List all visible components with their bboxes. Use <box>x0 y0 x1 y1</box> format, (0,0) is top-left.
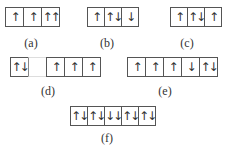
orbital-box: ↑ <box>170 7 188 27</box>
orbital-box: ↑ <box>5 7 24 27</box>
orbital-box <box>28 57 47 77</box>
label-f: (f) <box>101 131 113 146</box>
orbital-box: ↑↓ <box>87 106 105 126</box>
label-e: (e) <box>158 84 171 99</box>
label-a: (a) <box>24 36 37 51</box>
orbital-box: ↑↓ <box>70 106 88 126</box>
orbital-diagram-f: ↑↓ ↑↓ ↓↓ ↑↓ ↑↓ <box>70 106 156 126</box>
orbital-box: ↑ <box>87 7 105 27</box>
orbital-diagram-d: ↑↓ ↑ ↑ ↑ <box>10 57 101 77</box>
orbital-diagram-c: ↑ ↑↓ ↑ <box>170 7 222 27</box>
orbital-box: ↑ <box>204 7 222 27</box>
orbital-diagram-b: ↑ ↑↓ ↓ <box>87 7 139 27</box>
orbital-box: ↑↓ <box>138 106 156 126</box>
orbital-box: ↑ <box>64 57 83 77</box>
orbital-box: ↓ <box>181 57 200 77</box>
label-d: (d) <box>41 84 55 99</box>
orbital-diagram-e: ↑ ↑ ↑ ↓ ↑↓ <box>127 57 218 77</box>
orbital-box: ↑ <box>46 57 65 77</box>
label-c: (c) <box>180 36 193 51</box>
orbital-box: ↑↓ <box>187 7 205 27</box>
orbital-box: ↑ <box>82 57 101 77</box>
orbital-box: ↑↓ <box>199 57 218 77</box>
orbital-box: ↑ <box>23 7 42 27</box>
orbital-box: ↑ <box>127 57 146 77</box>
orbital-box: ↓↓ <box>104 106 122 126</box>
orbital-diagram-a: ↑ ↑ ↑↑ <box>5 7 60 27</box>
orbital-box: ↑↓ <box>121 106 139 126</box>
orbital-box: ↑↓ <box>104 7 122 27</box>
orbital-box: ↑↓ <box>10 57 29 77</box>
orbital-box: ↑↑ <box>41 7 60 27</box>
label-b: (b) <box>100 36 114 51</box>
orbital-box: ↑ <box>145 57 164 77</box>
orbital-box: ↓ <box>121 7 139 27</box>
orbital-box: ↑ <box>163 57 182 77</box>
